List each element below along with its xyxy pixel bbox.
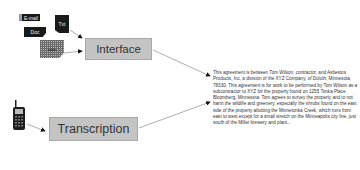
table-file-icon: table	[40, 40, 64, 58]
agreement-text-output: This agreement is between Tom Wilson, co…	[213, 70, 358, 127]
email-icon: E-mail	[19, 14, 40, 21]
table-to-interface-arrow	[64, 51, 82, 53]
doc-label: Doc	[31, 29, 40, 35]
interface-to-text-arrow	[153, 50, 210, 76]
email-label: E-mail	[24, 15, 38, 21]
phone-to-transcription-arrow	[27, 124, 45, 131]
txt-file-icon: Txt	[55, 15, 69, 33]
interface-node: Interface	[85, 38, 152, 60]
transcription-to-text-arrow	[139, 102, 210, 128]
doc-file-icon: Doc	[24, 27, 46, 37]
table-label: table	[48, 47, 57, 52]
txt-label: Txt	[59, 21, 66, 27]
mobile-phone-icon	[12, 100, 26, 130]
transcription-node: Transcription	[49, 117, 138, 141]
txt-to-interface-arrow	[70, 30, 82, 38]
interface-label: Interface	[96, 43, 141, 55]
transcription-label: Transcription	[58, 122, 130, 136]
